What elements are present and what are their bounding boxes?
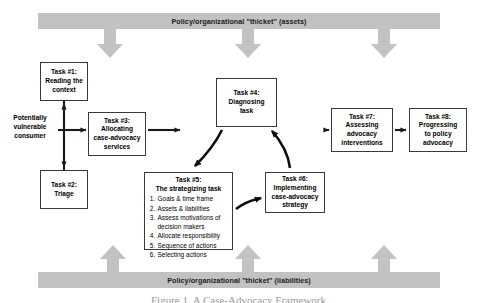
band-down-arrow-center [235,29,261,58]
task-8-box[interactable]: Task #8: Progressing to policy advocacy [409,108,467,152]
arrow-task4-to-task5 [195,130,222,166]
task-6-line-2: Implementing [274,184,317,193]
task-4-line-3: task [240,107,253,116]
task-5-box[interactable]: Task #5: The strategizing task Goals & t… [144,172,233,250]
top-policy-band: Policy/organizational "thicket" (assets) [38,13,440,29]
task-1-line-2: Reading the [45,77,83,86]
task-3-line-1: Task #3: [104,117,130,126]
task-1-line-3: context [52,86,75,95]
task-4-line-2: Diagnosing [229,98,265,107]
task-7-line-3: advocacy [347,130,377,139]
task-4-line-1: Task #4: [234,89,260,98]
task-7-line-1: Task #7: [349,113,375,122]
band-down-arrow-left [97,29,123,58]
task-6-line-4: strategy [282,201,308,210]
bottom-policy-band: Policy/organizational "thicket" (liabili… [38,272,440,288]
task-7-line-2: Assessing [346,121,379,130]
band-down-arrow-right [371,29,397,58]
figure-caption: Figure 1. A Case-Advocacy Framework [0,294,477,303]
entry-consumer-label: Potentially vulnerable consumer [1,113,59,140]
band-up-arrow-center [235,245,261,272]
task-6-line-3: case-advocacy [272,193,319,202]
task-5-step-item: Allocate responsibility [157,231,229,240]
task-3-line-4: services [104,143,130,152]
task-8-line-4: advocacy [423,139,453,148]
task-7-box[interactable]: Task #7: Assessing advocacy intervention… [331,108,393,152]
task-5-step-item: Goals & time frame [157,194,229,203]
task-8-line-3: to policy [424,130,451,139]
top-policy-band-label: Policy/organizational "thicket" (assets) [171,17,306,26]
task-1-box[interactable]: Task #1: Reading the context [40,62,88,101]
task-5-steps-list: Goals & time frame Assets & liabilities … [148,194,229,259]
entry-consumer-line-1: Potentially [1,113,59,122]
task-5-step-item: Selecting actions [157,250,229,259]
connector-overlay [0,0,477,303]
task-2-line-1: Task #2: [51,181,77,190]
task-5-line-1: Task #5: [148,176,229,185]
bottom-policy-band-label: Policy/organizational "thicket" (liabili… [167,276,311,285]
task-6-box[interactable]: Task #6: Implementing case-advocacy stra… [265,172,325,213]
task-5-step-item: Assets & liabilities [157,204,229,213]
task-3-line-3: case-advocacy [94,134,141,143]
task-5-line-2: The strategizing task [148,185,229,194]
task-6-line-1: Task #6: [282,175,308,184]
band-up-arrow-left [100,245,126,272]
task-3-line-2: Allocating [101,125,133,134]
task-8-line-2: Progressing [419,121,457,130]
arrow-task6-to-task4 [272,131,290,168]
task-8-line-1: Task #8: [425,113,451,122]
task-2-line-2: Triage [54,190,73,199]
task-1-line-1: Task #1: [51,68,77,77]
case-advocacy-framework-diagram: Policy/organizational "thicket" (assets)… [0,0,477,303]
arrow-task5-to-task6 [236,198,261,209]
task-4-box[interactable]: Task #4: Diagnosing task [216,78,277,127]
task-5-step-item: Assess motivations of decision makers [157,213,229,231]
band-up-arrow-right [371,245,397,272]
task-2-box[interactable]: Task #2: Triage [40,170,88,209]
task-7-line-4: interventions [341,139,382,148]
entry-consumer-line-2: vulnerable [1,122,59,131]
task-5-step-item: Sequence of actions [157,241,229,250]
task-5-header: Task #5: The strategizing task [148,176,229,193]
entry-consumer-line-3: consumer [1,131,59,140]
task-3-box[interactable]: Task #3: Allocating case-advocacy servic… [88,112,146,156]
